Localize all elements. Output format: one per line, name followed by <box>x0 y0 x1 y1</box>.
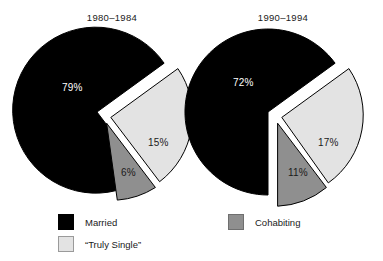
left-label-married: 79% <box>62 82 83 93</box>
legend-label-cohabiting: Cohabiting <box>255 217 300 228</box>
right-label-cohabiting: 11% <box>288 167 308 178</box>
pie-chart-figure: 1980–1984 1990–1994 79% 15% 6% 72% 17% 1 <box>0 0 383 261</box>
right-label-married: 72% <box>233 77 254 88</box>
right-label-truly-single: 17% <box>318 137 339 148</box>
left-label-truly-single: 15% <box>148 137 169 148</box>
legend-label-truly-single: “Truly Single” <box>85 239 141 250</box>
legend-swatch-married-icon <box>58 214 74 230</box>
legend-item-cohabiting: Cohabiting <box>228 214 300 230</box>
legend-item-married: Married <box>58 214 117 230</box>
legend-item-truly-single: “Truly Single” <box>58 236 141 252</box>
left-label-cohabiting: 6% <box>121 167 136 178</box>
right-pie-group: 72% 17% 11% <box>185 29 363 206</box>
left-pie-group: 79% 15% 6% <box>13 27 193 200</box>
legend-swatch-truly-single-icon <box>58 236 74 252</box>
legend-label-married: Married <box>85 217 117 228</box>
legend-swatch-cohabiting-icon <box>228 214 244 230</box>
